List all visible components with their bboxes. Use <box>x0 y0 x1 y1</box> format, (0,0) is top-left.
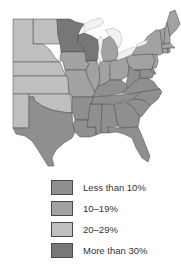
legend-swatch-less-than-10 <box>51 180 73 195</box>
state-maine <box>167 10 180 36</box>
state-new-mexico <box>13 94 29 128</box>
legend-swatch-more-than-30 <box>51 243 73 258</box>
state-florida <box>108 127 150 162</box>
legend-label: Less than 10% <box>83 182 146 193</box>
legend-label: 20–29% <box>83 224 118 235</box>
state-north-dakota <box>33 19 60 44</box>
state-nebraska <box>13 62 66 76</box>
choropleth-map <box>0 0 181 172</box>
state-new-york <box>132 30 163 55</box>
state-rhode-island <box>168 48 170 53</box>
legend-item: 10–19% <box>51 198 176 219</box>
legend-label: 10–19% <box>83 203 118 214</box>
map-legend: Less than 10% 10–19% 20–29% More than 30… <box>51 177 176 261</box>
state-iowa <box>60 52 89 70</box>
legend-item: Less than 10% <box>51 177 176 198</box>
legend-label: More than 30% <box>83 245 147 256</box>
lake-superior <box>84 18 104 33</box>
legend-item: More than 30% <box>51 240 176 261</box>
legend-item: 20–29% <box>51 219 176 240</box>
state-kansas <box>13 76 69 94</box>
legend-swatch-20-29 <box>51 222 73 237</box>
legend-swatch-10-19 <box>51 201 73 216</box>
